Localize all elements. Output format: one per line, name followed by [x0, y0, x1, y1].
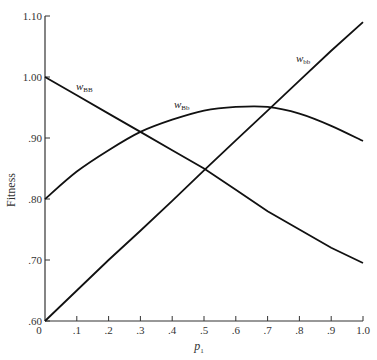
y-tick-label: .80: [28, 193, 42, 205]
y-tick-label: 1.10: [23, 10, 43, 22]
y-axis-title: Fitness: [4, 173, 18, 207]
x-tick-label: 1.0: [356, 324, 370, 336]
x-tick-label: .7: [263, 324, 272, 336]
y-tick-label: .60: [28, 315, 42, 327]
series-label-w-bb: wBb: [174, 98, 190, 112]
x-tick-label: .8: [295, 324, 304, 336]
y-tick-label: 1.00: [23, 71, 43, 83]
y-tick-label: .70: [28, 254, 42, 266]
fitness-chart: 0.1.2.3.4.5.6.7.8.91.0.60.70.80.901.001.…: [0, 0, 377, 360]
series-line-w-bb: [45, 22, 363, 321]
y-tick-label: .90: [28, 132, 42, 144]
series-line-w-bb: [45, 106, 363, 199]
x-tick-label: .6: [232, 324, 241, 336]
x-tick-label: .9: [327, 324, 336, 336]
series-lines: [45, 22, 363, 321]
x-tick-label: .4: [168, 324, 177, 336]
x-tick-label: .2: [104, 324, 112, 336]
series-label-w-bb: wbb: [296, 52, 311, 66]
x-tick-label: .1: [73, 324, 81, 336]
series-label-w-bb: wBB: [76, 80, 93, 94]
x-tick-label: .5: [200, 324, 209, 336]
x-axis-title: p1: [193, 339, 204, 355]
x-tick-label: .3: [136, 324, 145, 336]
